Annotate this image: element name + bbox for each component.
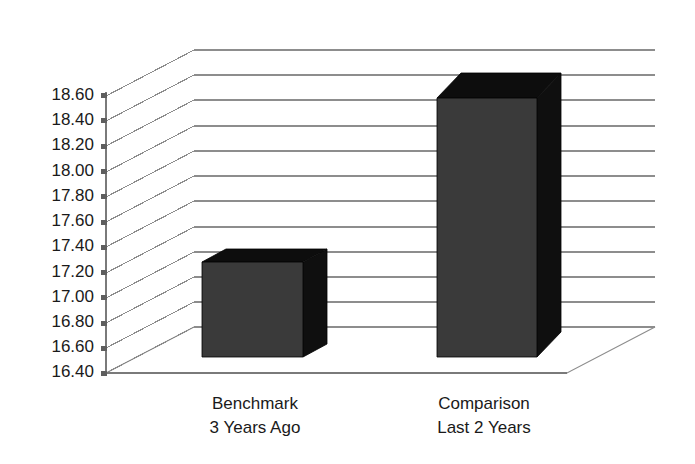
tick-mark-16-40 [101, 371, 107, 376]
y-axis-tick-labels: 18.60 18.40 18.20 18.00 17.80 17.60 17.4… [51, 85, 94, 381]
y-tick-label: 16.60 [51, 337, 94, 356]
category-label-benchmark-line2: 3 Years Ago [210, 418, 301, 437]
y-tick-label: 18.00 [51, 161, 94, 180]
bar-benchmark-front-face [202, 262, 303, 357]
category-label-comparison-line2: Last 2 Years [437, 418, 531, 437]
floor-plane [106, 327, 655, 373]
y-tick-label: 17.20 [51, 262, 94, 281]
category-label-benchmark-line1: Benchmark [212, 394, 298, 413]
y-tick-label: 17.80 [51, 186, 94, 205]
gridline-18-20 [106, 100, 655, 146]
x-axis-category-labels: Benchmark 3 Years Ago Comparison Last 2 … [210, 394, 531, 437]
tick-mark-18-40 [101, 118, 107, 123]
gridline-17-20 [106, 227, 655, 273]
tick-mark-18-20 [101, 144, 107, 149]
bar-comparison-front-face [437, 98, 537, 357]
tick-mark-18-60 [101, 93, 107, 98]
gridline-18-40 [106, 75, 655, 121]
gridline-17-00 [106, 252, 655, 298]
bar-comparison-side-face [537, 73, 561, 357]
tick-mark-17-40 [101, 245, 107, 250]
bar-benchmark-side-face [303, 249, 327, 357]
bar-comparison[interactable] [437, 73, 561, 357]
bar-chart-3d: 18.60 18.40 18.20 18.00 17.80 17.60 17.4… [0, 0, 695, 464]
category-label-comparison-line1: Comparison [438, 394, 530, 413]
gridline-18-60 [106, 50, 655, 96]
y-tick-label: 16.40 [51, 362, 94, 381]
chart-container: 18.60 18.40 18.20 18.00 17.80 17.60 17.4… [0, 0, 695, 464]
tick-mark-18-00 [101, 169, 107, 174]
gridline-16-80 [106, 277, 655, 323]
gridline-18-00 [106, 126, 655, 172]
gridline-17-40 [106, 201, 655, 247]
y-tick-label: 18.60 [51, 85, 94, 104]
y-tick-label: 17.00 [51, 287, 94, 306]
tick-mark-16-80 [101, 321, 107, 326]
gridline-17-80 [106, 151, 655, 197]
tick-mark-16-60 [101, 346, 107, 351]
gridline-17-60 [106, 176, 655, 222]
floor-outline [106, 327, 655, 373]
tick-mark-17-00 [101, 295, 107, 300]
gridline-16-60 [106, 302, 655, 348]
y-tick-label: 17.60 [51, 211, 94, 230]
gridlines-group [106, 50, 655, 373]
y-tick-label: 18.40 [51, 110, 94, 129]
gridline-16-40 [106, 327, 655, 373]
bar-benchmark[interactable] [202, 249, 327, 357]
tick-mark-17-20 [101, 270, 107, 275]
y-tick-label: 17.40 [51, 236, 94, 255]
y-tick-label: 16.80 [51, 312, 94, 331]
tick-mark-17-60 [101, 220, 107, 225]
y-tick-label: 18.20 [51, 135, 94, 154]
tick-mark-17-80 [101, 194, 107, 199]
